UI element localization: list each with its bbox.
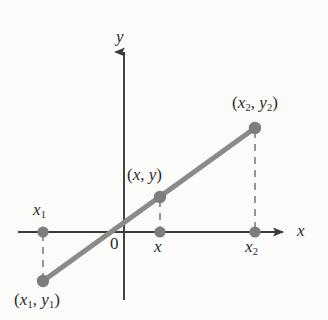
x1-tick-label: x1 <box>33 201 46 220</box>
point-2-label: (x2, y2) <box>232 94 278 113</box>
point-marker-p2 <box>249 122 261 134</box>
point-marker-pmid <box>154 191 166 203</box>
coordinate-line-figure: y x 0 x1 x x2 (x1, y1) (x, y) (x2, y2) <box>0 0 328 320</box>
point-marker-x2-tick <box>249 226 260 237</box>
line-segment <box>43 128 255 281</box>
y-axis-label: y <box>116 28 124 45</box>
x2-tick-label: x2 <box>245 238 258 257</box>
point-marker-x1-tick <box>37 226 48 237</box>
point-marker-x-tick <box>154 226 165 237</box>
x-tick-label: x <box>154 238 162 255</box>
point-mid-label: (x, y) <box>127 166 162 183</box>
point-marker-p1 <box>37 275 49 287</box>
point-1-label: (x1, y1) <box>14 291 60 310</box>
origin-label: 0 <box>110 235 119 252</box>
figure-canvas <box>0 0 328 320</box>
x-axis-label: x <box>297 222 305 239</box>
